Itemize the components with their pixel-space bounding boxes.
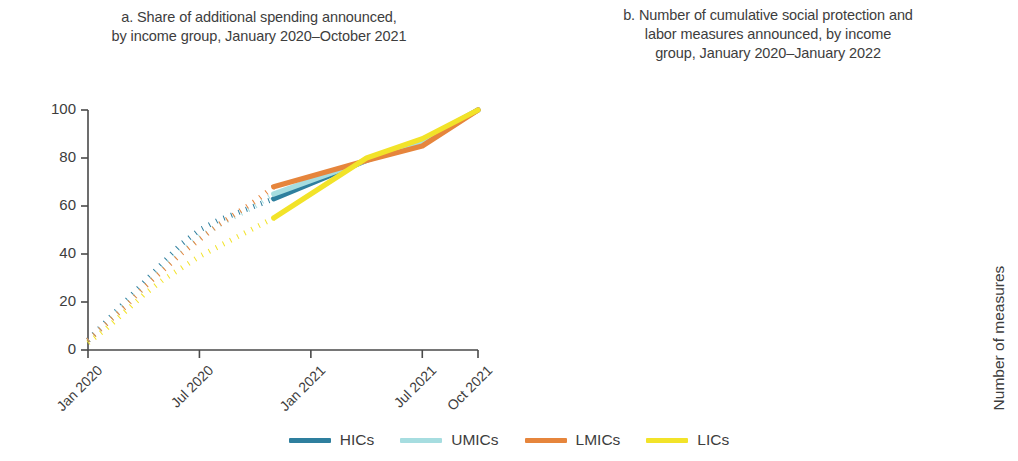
chart-panel-a: a. Share of additional spending announce… [0, 0, 518, 420]
panel-a-plot-area: Share of total announced (%) 02040608010… [88, 110, 478, 350]
legend-label: LICs [697, 431, 729, 449]
y-tick-label: 0 [6, 340, 76, 357]
y-tick-label: 100 [6, 100, 76, 117]
chart-panel-b: b. Number of cumulative social protectio… [518, 0, 1018, 420]
legend-item-umics[interactable]: UMICs [400, 431, 498, 449]
panel-b-title-line3: group, January 2020–January 2022 [518, 44, 1018, 63]
legend-label: UMICs [451, 431, 498, 449]
panel-b-title-line2: labor measures announced, by income [518, 25, 1018, 44]
y-tick-label: 20 [6, 292, 76, 309]
panel-a-title: a. Share of additional spending announce… [0, 8, 518, 46]
legend-swatch-icon [400, 438, 442, 443]
legend-item-lics[interactable]: LICs [646, 431, 729, 449]
x-tick-label: Jan 2021 [260, 362, 328, 430]
series-line-umics-dotted [88, 194, 274, 340]
y-tick-label: 60 [6, 196, 76, 213]
x-tick-label: Jan 2020 [37, 362, 105, 430]
panel-a-title-line1: a. Share of additional spending announce… [0, 8, 518, 27]
legend-item-hics[interactable]: HICs [289, 431, 374, 449]
y-tick-label: 40 [6, 244, 76, 261]
legend-item-lmics[interactable]: LMICs [525, 431, 621, 449]
series-line-lmics-dotted [88, 187, 274, 341]
panel-b-title-line1: b. Number of cumulative social protectio… [518, 6, 1018, 25]
series-line-lmics [274, 110, 478, 187]
series-line-umics [274, 110, 478, 194]
legend-label: HICs [340, 431, 374, 449]
figure-container: a. Share of additional spending announce… [0, 0, 1018, 461]
panel-b-title: b. Number of cumulative social protectio… [518, 6, 1018, 63]
y-tick-label: 80 [6, 148, 76, 165]
panel-b-y-axis-title: Number of measures [990, 218, 1008, 458]
x-tick-label: Jul 2020 [149, 362, 217, 430]
legend-label: LMICs [576, 431, 621, 449]
panel-a-title-line2: by income group, January 2020–October 20… [0, 27, 518, 46]
series-line-lics [274, 110, 478, 218]
panel-a-svg [88, 110, 478, 350]
series-line-hics-dotted [88, 199, 274, 341]
legend-swatch-icon [289, 438, 331, 443]
chart-legend: HICsUMICsLMICsLICs [0, 425, 1018, 455]
legend-swatch-icon [646, 438, 688, 443]
legend-swatch-icon [525, 438, 567, 443]
series-line-lics-dotted [88, 218, 274, 343]
